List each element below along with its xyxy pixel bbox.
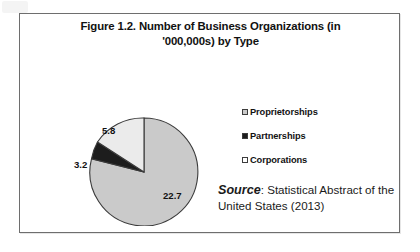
pie-value-label-partnerships: 3.2 (74, 159, 87, 170)
legend-label-corporations: Corporations (250, 155, 307, 165)
pie-chart: 5.8 3.2 22.7 (72, 102, 218, 226)
legend-item-partnerships: Partnerships (242, 130, 382, 142)
pie-value-label-corporations: 5.8 (102, 125, 115, 136)
scan-artifact (2, 1, 28, 13)
pie-chart-svg (72, 102, 218, 226)
figure-title-line-2: '000,000s) by Type (38, 34, 383, 49)
figure-title-line-1: Figure 1.2. Number of Business Organizat… (81, 20, 341, 32)
legend-swatch-corporations-icon (242, 157, 248, 163)
legend-label-partnerships: Partnerships (250, 131, 306, 141)
figure-canvas: Figure 1.2. Number of Business Organizat… (0, 0, 420, 252)
chart-legend: Proprietorships Partnerships Corporation… (242, 106, 382, 178)
source-note: Source: Statistical Abstract of the Unit… (218, 182, 398, 214)
legend-item-proprietorships: Proprietorships (242, 106, 382, 118)
pie-value-label-proprietorships: 22.7 (163, 190, 182, 201)
legend-swatch-partnerships-icon (242, 133, 248, 139)
figure-title: Figure 1.2. Number of Business Organizat… (38, 19, 383, 49)
legend-swatch-proprietorships-icon (242, 109, 248, 115)
figure-frame: Figure 1.2. Number of Business Organizat… (19, 13, 400, 233)
source-note-label: Source (218, 183, 261, 197)
legend-item-corporations: Corporations (242, 154, 382, 166)
legend-label-proprietorships: Proprietorships (250, 107, 318, 117)
